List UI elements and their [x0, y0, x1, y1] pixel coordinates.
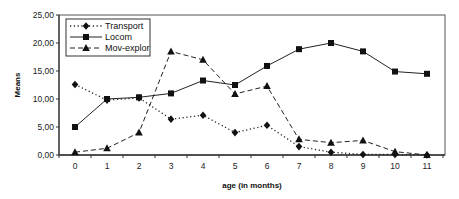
- diamond-marker: [168, 115, 175, 123]
- x-tick-label: 2: [137, 161, 142, 171]
- x-tick-label: 11: [423, 161, 432, 171]
- square-marker: [168, 90, 174, 96]
- square-marker: [104, 96, 110, 102]
- diamond-marker: [72, 81, 79, 89]
- x-tick-label: 8: [329, 161, 334, 171]
- diamond-marker: [360, 151, 367, 159]
- y-tick-label: 15,00: [33, 66, 55, 76]
- line-chart: 0,005,0010,0015,0020,0025,00 01234567891…: [0, 0, 459, 199]
- x-tick-label: 4: [201, 161, 206, 171]
- square-marker: [232, 82, 238, 88]
- x-tick-label: 3: [169, 161, 174, 171]
- square-marker: [360, 48, 366, 54]
- square-marker: [83, 34, 89, 40]
- y-tick-label: 5,00: [37, 122, 54, 132]
- x-tick-label: 10: [390, 161, 400, 171]
- x-tick-label: 1: [105, 161, 110, 171]
- legend-label: Locom: [105, 32, 132, 42]
- legend: TransportLocomMov-explor: [66, 19, 150, 56]
- triangle-marker: [263, 82, 271, 89]
- y-tick-label: 25,00: [33, 10, 55, 20]
- x-axis-title: age (in months): [222, 181, 282, 190]
- triangle-marker: [135, 129, 143, 136]
- y-axis-title: Means: [13, 72, 22, 97]
- x-tick-label: 7: [297, 161, 302, 171]
- series-mov-explor: [71, 47, 431, 158]
- triangle-marker: [167, 47, 175, 54]
- y-tick-label: 20,00: [33, 38, 55, 48]
- x-axis: 01234567891011: [59, 155, 445, 171]
- square-marker: [424, 71, 430, 77]
- x-tick-label: 5: [233, 161, 238, 171]
- y-tick-label: 0,00: [37, 150, 54, 160]
- x-tick-label: 0: [73, 161, 78, 171]
- triangle-marker: [103, 144, 111, 151]
- diamond-marker: [232, 129, 239, 137]
- triangle-marker: [295, 135, 303, 142]
- x-tick-label: 9: [361, 161, 366, 171]
- square-marker: [200, 78, 206, 84]
- triangle-marker: [231, 90, 239, 97]
- square-marker: [72, 124, 78, 130]
- square-marker: [136, 94, 142, 100]
- square-marker: [328, 40, 334, 46]
- square-marker: [392, 69, 398, 75]
- diamond-marker: [296, 143, 303, 151]
- series-layer: [71, 40, 431, 159]
- square-marker: [264, 63, 270, 69]
- series-transport: [72, 81, 431, 159]
- diamond-marker: [264, 122, 271, 130]
- legend-label: Transport: [105, 21, 144, 31]
- y-tick-label: 10,00: [33, 94, 55, 104]
- legend-label: Mov-explor: [105, 43, 150, 53]
- diamond-marker: [200, 111, 207, 119]
- square-marker: [296, 46, 302, 52]
- series-line: [75, 51, 427, 155]
- y-axis: 0,005,0010,0015,0020,0025,00: [33, 10, 59, 160]
- series-line: [75, 84, 427, 155]
- x-tick-label: 6: [265, 161, 270, 171]
- triangle-marker: [359, 136, 367, 143]
